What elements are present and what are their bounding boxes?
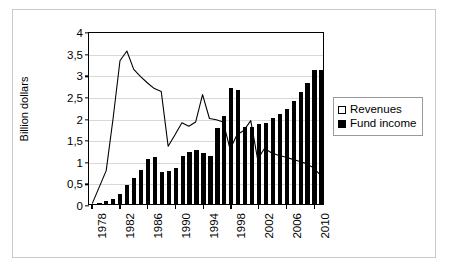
x-tick-label: 1986 bbox=[152, 213, 164, 239]
open-square-icon bbox=[338, 106, 346, 114]
y-tick-mark bbox=[85, 54, 89, 55]
x-tick-mark bbox=[175, 205, 176, 209]
x-tick-mark bbox=[286, 205, 287, 209]
x-tick-label: 1990 bbox=[180, 213, 192, 239]
y-tick-label: 0 bbox=[43, 200, 83, 212]
x-tick-mark bbox=[230, 205, 231, 209]
y-tick-mark bbox=[85, 32, 89, 33]
y-tick-mark bbox=[85, 184, 89, 185]
x-tick-label: 1982 bbox=[124, 213, 136, 239]
y-tick-mark bbox=[85, 76, 89, 77]
y-tick-mark bbox=[85, 162, 89, 163]
y-tick-mark bbox=[85, 97, 89, 98]
y-tick-label: 1,5 bbox=[43, 135, 83, 147]
x-tick-label: 2002 bbox=[263, 213, 275, 239]
y-tick-label: 3 bbox=[43, 70, 83, 82]
x-tick-mark bbox=[91, 205, 92, 209]
y-tick-label: 1 bbox=[43, 157, 83, 169]
y-tick-label: 4 bbox=[43, 27, 83, 39]
x-tick-label: 1998 bbox=[235, 213, 247, 239]
filled-square-icon bbox=[338, 120, 346, 128]
x-axis: 197819821986199019941998200220062010 bbox=[88, 205, 324, 265]
line-series-revenues bbox=[89, 33, 323, 204]
x-tick-mark bbox=[258, 205, 259, 209]
legend-item-fund-income: Fund income bbox=[338, 117, 416, 130]
y-tick-mark bbox=[85, 119, 89, 120]
chart-legend: Revenues Fund income bbox=[333, 97, 423, 136]
x-tick-label: 1994 bbox=[208, 213, 220, 239]
legend-item-revenues: Revenues bbox=[338, 103, 416, 116]
x-tick-mark bbox=[119, 205, 120, 209]
y-tick-label: 2,5 bbox=[43, 92, 83, 104]
y-tick-mark bbox=[85, 140, 89, 141]
legend-label-fund-income: Fund income bbox=[350, 117, 416, 130]
x-tick-mark bbox=[314, 205, 315, 209]
chart-figure: Billion dollars 00,511,522,533,54 197819… bbox=[0, 0, 450, 273]
x-tick-mark bbox=[203, 205, 204, 209]
y-tick-label: 0,5 bbox=[43, 178, 83, 190]
revenues-polyline bbox=[92, 51, 319, 203]
x-tick-label: 2006 bbox=[291, 213, 303, 239]
y-tick-label: 3,5 bbox=[43, 49, 83, 61]
y-axis-title: Billion dollars bbox=[18, 54, 30, 164]
plot-area: 00,511,522,533,54 bbox=[88, 32, 324, 205]
x-tick-label: 2010 bbox=[319, 213, 331, 239]
y-tick-label: 2 bbox=[43, 114, 83, 126]
legend-label-revenues: Revenues bbox=[350, 103, 402, 116]
x-tick-label: 1978 bbox=[96, 213, 108, 239]
x-tick-mark bbox=[147, 205, 148, 209]
